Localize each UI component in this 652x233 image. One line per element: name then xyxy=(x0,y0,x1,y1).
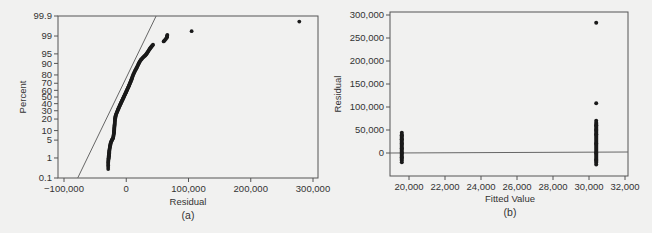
data-point xyxy=(594,21,598,25)
y-axis-ticks-a: 0.115102030405060708090959999.9 xyxy=(34,10,59,183)
data-point xyxy=(594,123,598,127)
data-point xyxy=(594,142,598,146)
data-point xyxy=(190,29,194,33)
data-point xyxy=(594,133,598,137)
x-tick-label: 22,000 xyxy=(430,181,459,192)
data-point xyxy=(400,146,404,150)
x-tick-label: 0 xyxy=(124,183,129,194)
reference-line-a xyxy=(78,16,156,178)
y-tick-label: 0 xyxy=(379,147,384,158)
residuals-vs-fits-plot: 050,000100,000150,000200,000250,000300,0… xyxy=(332,9,640,218)
y-tick-label: 99 xyxy=(41,30,52,41)
panel-label-b: (b) xyxy=(504,206,517,218)
y-tick-label: 300,000 xyxy=(350,9,384,20)
y-tick-label: 1 xyxy=(47,152,52,163)
data-point xyxy=(297,20,301,24)
data-point xyxy=(151,43,155,47)
x-tick-label: 20,000 xyxy=(394,181,423,192)
data-point xyxy=(400,134,404,138)
data-point xyxy=(165,33,169,37)
reference-line-b xyxy=(390,152,628,153)
x-axis-ticks-b: 20,00022,00024,00026,00028,00030,00032,0… xyxy=(394,176,639,192)
y-tick-label: 50,000 xyxy=(355,124,384,135)
y-axis-title-a: Percent xyxy=(17,80,28,113)
data-point xyxy=(594,101,598,105)
data-point xyxy=(400,137,404,141)
data-point xyxy=(400,160,404,164)
panel-label-a: (a) xyxy=(182,209,195,221)
data-points-b xyxy=(400,21,598,167)
data-point xyxy=(594,158,598,162)
y-tick-label: 150,000 xyxy=(350,78,384,89)
data-point xyxy=(400,142,404,146)
y-tick-label: 95 xyxy=(41,48,52,59)
y-tick-label: 80 xyxy=(41,69,52,80)
y-axis-ticks-b: 050,000100,000150,000200,000250,000300,0… xyxy=(350,9,390,158)
data-point xyxy=(594,163,598,167)
x-axis-title-b: Fitted Value xyxy=(485,193,535,204)
y-tick-label: 250,000 xyxy=(350,32,384,43)
y-tick-label: 0.1 xyxy=(39,172,52,183)
y-tick-label: 10 xyxy=(41,125,52,136)
x-tick-label: 24,000 xyxy=(466,181,495,192)
data-point xyxy=(400,151,404,155)
plot-frame-b xyxy=(390,12,628,176)
y-tick-label: 100,000 xyxy=(350,101,384,112)
y-tick-label: 200,000 xyxy=(350,55,384,66)
x-tick-label: 26,000 xyxy=(502,181,531,192)
data-points-a xyxy=(106,20,301,171)
x-axis-title-a: Residual xyxy=(170,196,207,207)
figure: 0.115102030405060708090959999.9 −100,000… xyxy=(0,0,652,233)
normal-probability-plot: 0.115102030405060708090959999.9 −100,000… xyxy=(17,10,330,221)
plot-frame-a xyxy=(58,16,318,178)
y-tick-label: 90 xyxy=(41,58,52,69)
data-point xyxy=(400,156,404,160)
y-tick-label: 5 xyxy=(47,134,52,145)
data-point xyxy=(594,119,598,123)
x-tick-label: 200,000 xyxy=(234,183,268,194)
x-tick-label: 100,000 xyxy=(171,183,205,194)
data-point xyxy=(594,128,598,132)
x-tick-label: 32,000 xyxy=(610,181,639,192)
data-point xyxy=(594,151,598,155)
x-tick-label: 28,000 xyxy=(538,181,567,192)
x-tick-label: 30,000 xyxy=(574,181,603,192)
y-axis-title-b: Residual xyxy=(332,76,343,113)
x-tick-label: −100,000 xyxy=(44,183,84,194)
x-tick-label: 300,000 xyxy=(296,183,330,194)
y-tick-label: 99.9 xyxy=(34,10,53,21)
x-axis-ticks-a: −100,0000100,000200,000300,000 xyxy=(44,178,330,194)
